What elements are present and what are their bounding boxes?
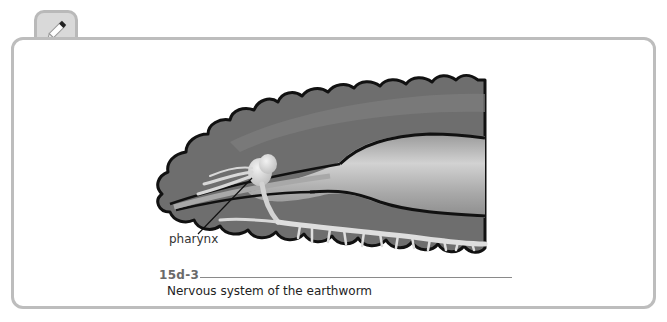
figure-caption: Nervous system of the earthworm (167, 284, 372, 298)
pharynx-label: pharynx (169, 232, 218, 246)
figure-divider (200, 277, 512, 278)
figure-number: 15d-3 (159, 268, 199, 282)
